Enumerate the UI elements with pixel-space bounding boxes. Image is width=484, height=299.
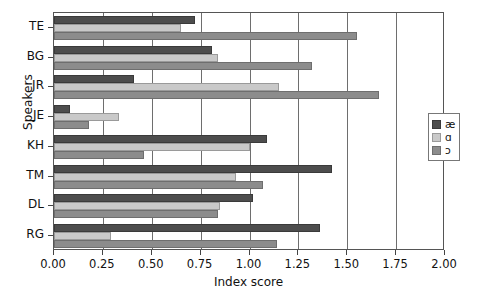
x-tick — [297, 250, 298, 255]
y-tick-label-JR: JR — [0, 78, 44, 92]
gridline — [347, 13, 348, 249]
y-tick — [48, 205, 53, 206]
x-axis-title: Index score — [53, 275, 444, 289]
bar-DL-oh — [54, 210, 218, 218]
bar-chart: Speakers 0.000.250.500.751.001.251.501.7… — [0, 0, 484, 299]
bar-TE-oh — [54, 32, 357, 40]
bar-TE-ae — [54, 16, 195, 24]
bar-TM-ah — [54, 173, 236, 181]
y-tick-label-RG: RG — [0, 227, 44, 241]
gridline — [250, 13, 251, 249]
x-tick-label: 2.00 — [414, 257, 474, 271]
y-tick — [48, 27, 53, 28]
bar-JR-ae — [54, 75, 134, 83]
bar-TM-ae — [54, 165, 332, 173]
y-tick — [48, 116, 53, 117]
x-tick — [346, 250, 347, 255]
legend-label-oh: ɔ — [445, 145, 451, 155]
bar-TM-oh — [54, 181, 263, 189]
y-tick-label-KH: KH — [0, 138, 44, 152]
bar-JR-ah — [54, 83, 279, 91]
bar-DL-ae — [54, 194, 253, 202]
bar-TE-ah — [54, 24, 181, 32]
y-tick-label-DL: DL — [0, 197, 44, 211]
x-tick — [444, 250, 445, 255]
bar-RG-ae — [54, 224, 320, 232]
bar-DL-ah — [54, 202, 220, 210]
x-tick — [102, 250, 103, 255]
legend-label-ah: ɑ — [445, 132, 452, 142]
x-tick — [151, 250, 152, 255]
bar-KH-ah — [54, 143, 250, 151]
bar-RG-oh — [54, 240, 277, 248]
y-tick — [48, 176, 53, 177]
gridline — [298, 13, 299, 249]
legend-swatch-ae — [432, 120, 441, 129]
bar-BG-ae — [54, 46, 212, 54]
legend-swatch-ah — [432, 133, 441, 142]
y-tick — [48, 86, 53, 87]
bar-BG-ah — [54, 54, 218, 62]
plot-area — [53, 12, 444, 250]
y-tick-label-JE: JE — [0, 108, 44, 122]
bar-JR-oh — [54, 91, 379, 99]
legend-label-ae: æ — [445, 119, 455, 129]
bar-RG-ah — [54, 232, 111, 240]
y-tick-label-BG: BG — [0, 49, 44, 63]
bar-JE-oh — [54, 121, 89, 129]
x-tick — [53, 250, 54, 255]
x-tick — [200, 250, 201, 255]
bar-JE-ae — [54, 105, 70, 113]
legend-swatch-oh — [432, 146, 441, 155]
bar-JE-ah — [54, 113, 119, 121]
legend-item-ae: æ — [432, 118, 455, 130]
y-tick — [48, 146, 53, 147]
y-tick-label-TE: TE — [0, 19, 44, 33]
y-tick-label-TM: TM — [0, 168, 44, 182]
legend-item-oh: ɔ — [432, 144, 455, 156]
bar-KH-oh — [54, 151, 144, 159]
x-tick — [395, 250, 396, 255]
x-tick — [249, 250, 250, 255]
legend: æ ɑ ɔ — [428, 113, 460, 161]
y-tick — [48, 57, 53, 58]
y-tick — [48, 235, 53, 236]
legend-item-ah: ɑ — [432, 131, 455, 143]
bar-BG-oh — [54, 62, 312, 70]
gridline — [396, 13, 397, 249]
bar-KH-ae — [54, 135, 267, 143]
